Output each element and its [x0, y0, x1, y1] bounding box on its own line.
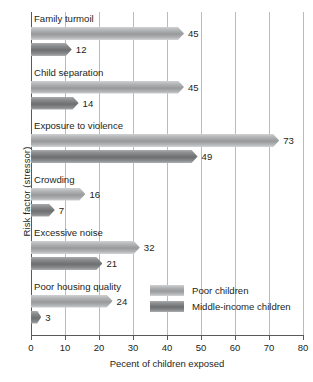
- x-tick: [201, 335, 202, 340]
- bar-fill: [31, 150, 198, 163]
- category-label: Excessive noise: [34, 227, 103, 239]
- bar: [31, 81, 184, 94]
- category-label: Family turmoil: [34, 13, 94, 25]
- bar-value-label: 12: [76, 43, 87, 56]
- x-tick: [133, 335, 134, 340]
- bar: [31, 295, 113, 308]
- bar-fill: [31, 311, 41, 324]
- legend-item-middle-income-children: Middle-income children: [150, 301, 291, 312]
- bar-value-label: 45: [188, 81, 199, 94]
- bar-fill: [31, 134, 279, 147]
- category-label: Exposure to violence: [34, 120, 123, 132]
- bar-group: Family turmoil4512: [31, 13, 303, 67]
- bar: [31, 150, 198, 163]
- x-tick: [269, 335, 270, 340]
- x-tick-label: 40: [162, 342, 173, 353]
- legend-swatch-icon-middle: [150, 301, 184, 312]
- bar-group: Child separation4514: [31, 67, 303, 121]
- legend-swatch-icon-poor: [150, 285, 184, 296]
- bar-value-label: 45: [188, 27, 199, 40]
- x-tick-label: 80: [298, 342, 309, 353]
- bar: [31, 97, 79, 110]
- bar-value-label: 73: [283, 134, 294, 147]
- x-tick: [235, 335, 236, 340]
- bar-value-label: 21: [106, 257, 117, 270]
- bar-chart: Risk factor (stressor) Family turmoil451…: [0, 0, 313, 382]
- bar: [31, 134, 279, 147]
- x-tick-label: 20: [94, 342, 105, 353]
- legend-item-poor-children: Poor children: [150, 285, 291, 296]
- bar-fill: [31, 81, 184, 94]
- x-axis-label: Pecent of children exposed: [31, 358, 303, 369]
- x-tick: [99, 335, 100, 340]
- bar-fill: [31, 241, 140, 254]
- legend-label: Middle-income children: [192, 301, 291, 312]
- x-tick: [167, 335, 168, 340]
- bar: [31, 257, 102, 270]
- bar-fill: [31, 188, 85, 201]
- y-axis-label: Risk factor (stressor): [21, 112, 32, 272]
- bar-value-label: 32: [144, 241, 155, 254]
- bar-value-label: 16: [89, 188, 100, 201]
- bar-group: Exposure to violence7349: [31, 120, 303, 174]
- bar-group: Excessive noise3221: [31, 227, 303, 281]
- x-tick-label: 30: [128, 342, 139, 353]
- bar: [31, 43, 72, 56]
- x-tick-label: 50: [196, 342, 207, 353]
- bar-fill: [31, 97, 79, 110]
- bar-value-label: 3: [45, 311, 50, 324]
- x-tick-label: 70: [264, 342, 275, 353]
- bar-value-label: 14: [83, 97, 94, 110]
- bar-group: Crowding167: [31, 174, 303, 228]
- x-tick-label: 0: [28, 342, 33, 353]
- bar-fill: [31, 257, 102, 270]
- bar: [31, 204, 55, 217]
- bar: [31, 188, 85, 201]
- x-tick: [65, 335, 66, 340]
- bar-fill: [31, 43, 72, 56]
- category-label: Poor housing quality: [34, 281, 121, 293]
- bar-value-label: 7: [59, 204, 64, 217]
- category-label: Child separation: [34, 67, 103, 79]
- x-tick: [31, 335, 32, 340]
- bar: [31, 241, 140, 254]
- gridline: [303, 12, 304, 335]
- bar: [31, 311, 41, 324]
- bar-value-label: 24: [117, 295, 128, 308]
- bar-fill: [31, 27, 184, 40]
- bar-value-label: 49: [202, 150, 213, 163]
- chart-legend: Poor children Middle-income children: [150, 285, 291, 312]
- x-tick: [303, 335, 304, 340]
- bar: [31, 27, 184, 40]
- x-tick-label: 10: [60, 342, 71, 353]
- x-tick-label: 60: [230, 342, 241, 353]
- bar-fill: [31, 295, 113, 308]
- category-label: Crowding: [34, 174, 75, 186]
- legend-label: Poor children: [192, 285, 249, 296]
- bar-fill: [31, 204, 55, 217]
